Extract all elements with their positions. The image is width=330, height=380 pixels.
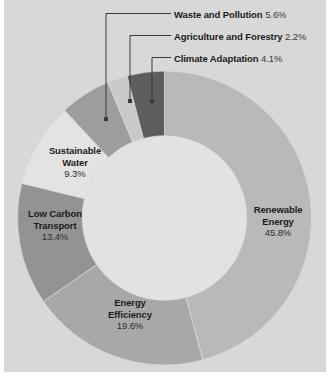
callout-label-value: 2.2% (285, 31, 306, 42)
slice-label-line2: Energy (233, 216, 323, 228)
slice-label-line2: Water (25, 157, 125, 169)
slice-label-percent: 19.6% (86, 320, 174, 332)
slice-label-line2: Efficiency (86, 309, 174, 321)
callout-label-name: Waste and Pollution (174, 9, 263, 20)
callout-label-value: 4.1% (261, 53, 282, 64)
slice-label-percent: 13.4% (7, 231, 103, 243)
slice-label-energy-efficiency[interactable]: Energy Efficiency 19.6% (86, 297, 174, 332)
slice-label-line1: Energy (86, 297, 174, 309)
callout-label-value: 5.6% (265, 9, 286, 20)
slice-label-line1: Sustainable (25, 145, 125, 157)
callout-label-name: Agriculture and Forestry (174, 31, 282, 42)
slice-label-line1: Low Carbon (7, 208, 103, 220)
callout-leader-dot (150, 99, 154, 103)
callout-waste-and-pollution[interactable]: Waste and Pollution 5.6% (174, 9, 286, 20)
donut-chart-page: Waste and Pollution 5.6% Agriculture and… (0, 0, 330, 380)
callout-climate-adaptation[interactable]: Climate Adaptation 4.1% (174, 53, 282, 64)
slice-label-low-carbon-transport[interactable]: Low Carbon Transport 13.4% (7, 208, 103, 243)
slice-label-line2: Transport (7, 220, 103, 232)
slice-label-percent: 45.8% (233, 227, 323, 239)
callout-label-name: Climate Adaptation (174, 53, 258, 64)
slice-label-sustainable-water[interactable]: Sustainable Water 9.3% (25, 145, 125, 180)
slice-label-percent: 9.3% (25, 168, 125, 180)
callout-agriculture-and-forestry[interactable]: Agriculture and Forestry 2.2% (174, 31, 306, 42)
slice-label-line1: Renewable (233, 204, 323, 216)
callout-leader-dot (128, 99, 132, 103)
callout-leader-dot (104, 117, 108, 121)
slice-label-renewable-energy[interactable]: Renewable Energy 45.8% (233, 204, 323, 239)
